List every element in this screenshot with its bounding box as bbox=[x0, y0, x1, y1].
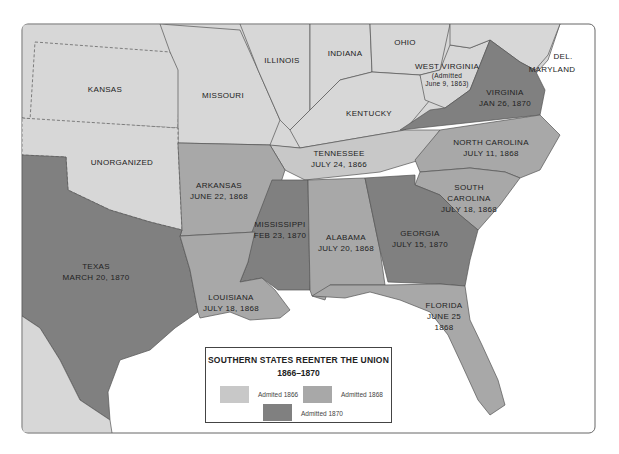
label-kansas: KANSAS bbox=[88, 84, 122, 95]
label-south-carolina: SOUTH CAROLINA JULY 18, 1868 bbox=[441, 182, 497, 215]
state-date: JULY 11, 1868 bbox=[453, 148, 529, 159]
state-name: TENNESSEE bbox=[311, 148, 367, 159]
legend-label-1868: Admitted 1868 bbox=[341, 391, 383, 398]
legend-label-1870: Admitted 1870 bbox=[301, 410, 343, 417]
state-name: MISSOURI bbox=[202, 91, 244, 100]
state-date: 1868 bbox=[426, 322, 463, 333]
label-kentucky: KENTUCKY bbox=[346, 108, 392, 119]
state-date: JUNE 25 bbox=[426, 311, 463, 322]
label-mississippi: MISSISSIPPI FEB 23, 1870 bbox=[254, 219, 307, 241]
label-virginia: VIRGINIA JAN 26, 1870 bbox=[479, 87, 531, 109]
label-florida: FLORIDA JUNE 25 1868 bbox=[426, 300, 463, 333]
state-name: INDIANA bbox=[328, 49, 363, 58]
label-missouri: MISSOURI bbox=[202, 90, 244, 101]
label-indiana: INDIANA bbox=[328, 48, 363, 59]
label-georgia: GEORGIA JULY 15, 1870 bbox=[392, 228, 448, 250]
state-name: KENTUCKY bbox=[346, 109, 392, 118]
state-date: JUNE 22, 1868 bbox=[190, 191, 248, 202]
state-name: DEL. bbox=[554, 52, 573, 61]
map-legend: SOUTHERN STATES REENTER THE UNION 1866–1… bbox=[205, 347, 392, 423]
legend-years: 1866–1870 bbox=[206, 368, 391, 378]
state-name: LOUISIANA bbox=[203, 292, 259, 303]
label-west-virginia: WEST VIRGINIA (Admitted June 9, 1863) bbox=[415, 61, 479, 88]
label-alabama: ALABAMA JULY 20, 1868 bbox=[318, 232, 374, 254]
state-name: TEXAS bbox=[63, 261, 130, 272]
legend-swatch-1870 bbox=[263, 404, 292, 421]
state-date: JULY 15, 1870 bbox=[392, 239, 448, 250]
state-name: MISSISSIPPI bbox=[254, 219, 307, 230]
state-date: JULY 24, 1866 bbox=[311, 159, 367, 170]
state-name: NORTH CAROLINA bbox=[453, 137, 529, 148]
state-name: OHIO bbox=[394, 38, 416, 47]
legend-title: SOUTHERN STATES REENTER THE UNION bbox=[206, 355, 391, 365]
label-tennessee: TENNESSEE JULY 24, 1866 bbox=[311, 148, 367, 170]
label-maryland: MARYLAND bbox=[529, 64, 576, 75]
label-ohio: OHIO bbox=[394, 37, 416, 48]
legend-swatch-1868 bbox=[303, 386, 332, 403]
legend-label-1866: Admited 1866 bbox=[258, 391, 298, 398]
label-delaware: DEL. bbox=[554, 51, 573, 62]
state-name: GEORGIA bbox=[392, 228, 448, 239]
state-date: JULY 18, 1868 bbox=[203, 303, 259, 314]
state-name: ALABAMA bbox=[318, 232, 374, 243]
state-name: VIRGINIA bbox=[479, 87, 531, 98]
state-name: WEST VIRGINIA bbox=[415, 61, 479, 72]
state-date: JAN 26, 1870 bbox=[479, 98, 531, 109]
label-texas: TEXAS MARCH 20, 1870 bbox=[63, 261, 130, 283]
state-name: CAROLINA bbox=[441, 193, 497, 204]
label-illinois: ILLINOIS bbox=[264, 55, 299, 66]
state-note: June 9, 1863) bbox=[415, 80, 479, 88]
state-name: ILLINOIS bbox=[264, 56, 299, 65]
state-date: JULY 18, 1868 bbox=[441, 204, 497, 215]
label-louisiana: LOUISIANA JULY 18, 1868 bbox=[203, 292, 259, 314]
label-unorganized: UNORGANIZED bbox=[91, 157, 153, 168]
label-north-carolina: NORTH CAROLINA JULY 11, 1868 bbox=[453, 137, 529, 159]
state-date: FEB 23, 1870 bbox=[254, 230, 307, 241]
state-name: KANSAS bbox=[88, 85, 122, 94]
state-date: MARCH 20, 1870 bbox=[63, 272, 130, 283]
label-arkansas: ARKANSAS JUNE 22, 1868 bbox=[190, 180, 248, 202]
state-name: MARYLAND bbox=[529, 65, 576, 74]
state-date: JULY 20, 1868 bbox=[318, 243, 374, 254]
legend-swatch-1866 bbox=[220, 386, 249, 403]
state-name: UNORGANIZED bbox=[91, 158, 153, 167]
state-name: FLORIDA bbox=[426, 300, 463, 311]
state-name: SOUTH bbox=[441, 182, 497, 193]
state-note: (Admitted bbox=[415, 72, 479, 80]
state-name: ARKANSAS bbox=[190, 180, 248, 191]
